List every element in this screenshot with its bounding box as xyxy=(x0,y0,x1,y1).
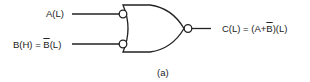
caption-text: (a) xyxy=(157,67,169,78)
caption: (a) xyxy=(157,67,169,78)
input-bubble-a xyxy=(119,10,127,18)
output-bubble xyxy=(184,25,192,33)
output-label: C(L) = (A+B)(L) xyxy=(222,23,287,34)
input-label-a-text: A(L) xyxy=(46,8,64,19)
output-label-suffix: )(L) xyxy=(273,23,288,34)
input-label-b-prefix: B(H) = xyxy=(13,39,43,50)
or-gate-body xyxy=(123,5,184,52)
input-label-b: B(H) = B(L) xyxy=(13,39,61,50)
output-label-prefix: C(L) = (A+ xyxy=(222,23,266,34)
input-bubble-b xyxy=(119,40,127,48)
input-label-a: A(L) xyxy=(46,8,64,19)
input-label-b-suffix: (L) xyxy=(50,39,62,50)
